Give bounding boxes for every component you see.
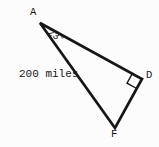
triangle-diagram: A D F 23° 200 miles	[0, 0, 159, 147]
vertex-label-f: F	[111, 129, 117, 140]
side-length-label: 200 miles	[19, 69, 78, 80]
vertex-label-d: D	[146, 70, 152, 81]
vertex-label-a: A	[30, 7, 36, 18]
